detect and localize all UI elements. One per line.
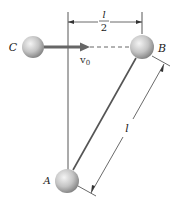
half-length-dimension: l 2: [68, 9, 142, 34]
ball-b: [130, 35, 154, 59]
ball-c: [22, 36, 44, 58]
ball-a-label: A: [42, 175, 50, 186]
rod-length-dimension: l: [78, 56, 170, 196]
velocity-arrow: [44, 43, 90, 52]
rod-length-label: l: [125, 122, 129, 135]
ball-c-label: C: [9, 41, 18, 54]
half-length-numerator: l: [102, 9, 105, 20]
half-length-denominator: 2: [101, 22, 107, 33]
rod-ab: [73, 58, 136, 170]
velocity-label: v0: [79, 54, 90, 67]
collision-diagram: l 2 l v0 C B A: [0, 0, 179, 201]
ball-b-label: B: [157, 42, 166, 55]
ball-a: [55, 169, 79, 193]
